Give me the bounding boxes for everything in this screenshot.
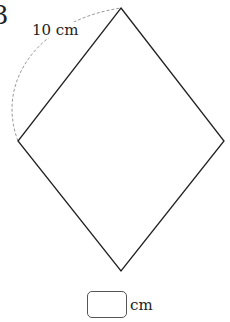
answer-row: cm — [87, 291, 153, 318]
rhombus-figure — [0, 0, 230, 322]
answer-unit: cm — [130, 296, 153, 314]
rhombus-outline — [18, 8, 224, 271]
answer-input-box[interactable] — [87, 291, 127, 318]
side-length-label: 10 cm — [31, 22, 79, 38]
